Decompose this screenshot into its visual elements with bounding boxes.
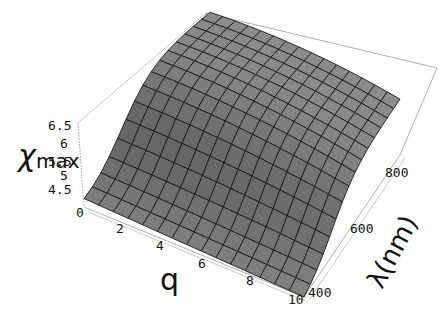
svg-text:400: 400 bbox=[308, 285, 331, 300]
svg-text:8: 8 bbox=[246, 273, 254, 288]
svg-text:χ: χ bbox=[16, 138, 37, 173]
svg-text:4: 4 bbox=[156, 238, 164, 253]
svg-text:6.5: 6.5 bbox=[48, 118, 71, 133]
svg-text:max: max bbox=[36, 149, 80, 173]
svg-text:600: 600 bbox=[350, 221, 373, 236]
svg-text:2: 2 bbox=[116, 221, 124, 236]
x-axis-label: q bbox=[160, 262, 179, 297]
svg-text:6: 6 bbox=[198, 256, 206, 271]
surface-mesh bbox=[84, 12, 400, 297]
z-axis-label: χ max bbox=[16, 138, 80, 173]
svg-text:0: 0 bbox=[76, 205, 84, 220]
plot-canvas: 6.5 6 5.5 5 4.5 0 2 4 6 8 10 400 600 800… bbox=[0, 0, 441, 318]
svg-text:4.5: 4.5 bbox=[48, 182, 71, 197]
svg-text:800: 800 bbox=[385, 165, 408, 180]
surface-plot: 6.5 6 5.5 5 4.5 0 2 4 6 8 10 400 600 800… bbox=[0, 0, 441, 318]
svg-text:10: 10 bbox=[288, 292, 304, 307]
